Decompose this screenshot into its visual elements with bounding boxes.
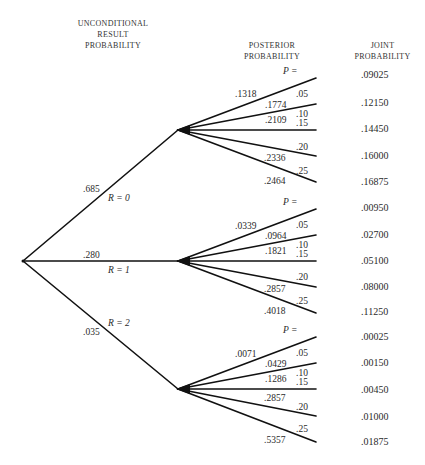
p-equals-label: P = (283, 66, 297, 76)
r0-prob: .685 (83, 184, 100, 194)
posterior-value: .4018 (264, 306, 285, 316)
posterior-value: .1318 (235, 89, 256, 99)
joint-value: .00025 (361, 332, 389, 342)
joint-value: .00450 (361, 385, 389, 395)
p-equals-label: P = (283, 197, 297, 207)
r0-label: R = 0 (108, 193, 130, 203)
posterior-value: .1774 (265, 100, 286, 110)
joint-value: .00150 (361, 358, 389, 368)
posterior-value: .0964 (265, 231, 286, 241)
branch-r0 (23, 130, 178, 261)
header-posterior: POSTERIOR PROBABILITY (232, 40, 312, 62)
node-r2 (176, 384, 190, 394)
p-value: .15 (296, 377, 308, 387)
p-value: .15 (296, 249, 308, 259)
p-value: .20 (296, 142, 308, 152)
p-value: .25 (296, 166, 308, 176)
joint-value: .14450 (361, 124, 389, 134)
header-line: PROBABILITY (58, 40, 168, 51)
p-value: .25 (296, 296, 308, 306)
p-value: .05 (296, 89, 308, 99)
header-joint: JOINT PROBABILITY (340, 40, 425, 62)
joint-value: .08000 (361, 282, 389, 292)
p-value: .25 (296, 424, 308, 434)
root-node (22, 260, 25, 263)
header-line: POSTERIOR (232, 40, 312, 51)
p-equals-label: P = (283, 325, 297, 335)
node-r1 (176, 256, 190, 266)
posterior-value: .5357 (264, 435, 285, 445)
p-value: .05 (296, 348, 308, 358)
r2-prob: .035 (83, 327, 100, 337)
node-r0 (176, 125, 190, 135)
posterior-value: .0429 (265, 359, 286, 369)
header-line: JOINT (340, 40, 425, 51)
joint-value: .11250 (361, 307, 388, 317)
p-value: .20 (296, 272, 308, 282)
joint-value: .02700 (361, 230, 389, 240)
r1-prob: .280 (83, 250, 100, 260)
header-line: UNCONDITIONAL (58, 18, 168, 29)
posterior-value: .2857 (264, 284, 285, 294)
r2-label: R = 2 (108, 318, 130, 328)
joint-value: .16875 (361, 177, 389, 187)
posterior-value: .2336 (264, 153, 285, 163)
p-value: .05 (296, 220, 308, 230)
posterior-value: .1821 (265, 246, 286, 256)
p-value: .20 (296, 402, 308, 412)
header-unconditional: UNCONDITIONAL RESULT PROBABILITY (58, 18, 168, 51)
posterior-value: .0071 (235, 349, 256, 359)
header-line: RESULT (58, 29, 168, 40)
posterior-value: .0339 (235, 221, 256, 231)
posterior-value: .2857 (264, 393, 285, 403)
joint-value: .01000 (361, 412, 389, 422)
posterior-value: .1286 (265, 374, 286, 384)
p-value: .15 (296, 118, 308, 128)
branch-r2 (23, 261, 178, 389)
header-line: PROBABILITY (340, 51, 425, 62)
joint-value: .12150 (361, 98, 389, 108)
joint-value: .00950 (361, 203, 389, 213)
header-line: PROBABILITY (232, 51, 312, 62)
posterior-value: .2109 (265, 115, 286, 125)
joint-value: .09025 (361, 70, 389, 80)
r1-label: R = 1 (108, 265, 130, 275)
joint-value: .01875 (361, 437, 389, 447)
posterior-value: .2464 (264, 176, 285, 186)
joint-value: .05100 (361, 256, 389, 266)
joint-value: .16000 (361, 151, 389, 161)
